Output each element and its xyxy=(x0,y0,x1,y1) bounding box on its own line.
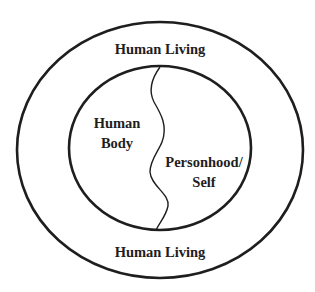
label-personhood-self-line1: Personhood/ xyxy=(165,154,243,170)
outer-circle-human-living xyxy=(17,22,303,278)
label-human-living-top: Human Living xyxy=(115,41,206,57)
body-personhood-living-diagram: Human Living Human Body Personhood/ Self… xyxy=(0,0,315,292)
label-human-living-bottom: Human Living xyxy=(115,244,206,260)
inner-circle-body-self xyxy=(69,66,251,230)
wavy-divider-line xyxy=(150,67,168,230)
label-human-body-line1: Human xyxy=(94,115,141,131)
label-personhood-self-line2: Self xyxy=(192,174,216,190)
label-human-body-line2: Body xyxy=(101,135,134,151)
